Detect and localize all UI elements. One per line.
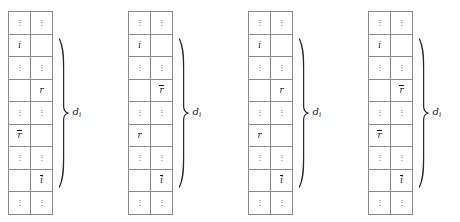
cell-right-6-vertical-dots: ⋮ (278, 154, 286, 162)
matrix-cell-right (151, 34, 173, 57)
matrix-table: ⋮⋮i⋮⋮r⋮⋮r⋮⋮i⋮⋮ (368, 11, 413, 215)
matrix-row: ⋮⋮ (249, 57, 293, 80)
right-brace-icon (417, 38, 430, 188)
matrix-cell-right (271, 124, 293, 147)
matrix-row: ⋮⋮ (129, 102, 173, 125)
matrix-cell-left: r (369, 124, 391, 147)
matrix-cell-left: ⋮ (9, 147, 31, 170)
matrix-cell-left: ⋮ (369, 12, 391, 35)
matrix-row: r (249, 79, 293, 102)
matrix-cell-right: ⋮ (151, 57, 173, 80)
cell-left-6-vertical-dots: ⋮ (376, 154, 384, 162)
cell-left-6-vertical-dots: ⋮ (16, 154, 24, 162)
matrix-cell-left: ⋮ (249, 57, 271, 80)
matrix-row: ⋮⋮ (369, 147, 413, 170)
cell-right-8-vertical-dots: ⋮ (278, 199, 286, 207)
matrix-cell-left (369, 79, 391, 102)
matrix-cell-left (249, 79, 271, 102)
matrix-cell-right: ⋮ (271, 147, 293, 170)
matrix-cell-right: ⋮ (271, 192, 293, 215)
matrix-cell-right (31, 124, 53, 147)
matrix-cell-right: ⋮ (271, 12, 293, 35)
cell-left-2-vertical-dots: ⋮ (16, 64, 24, 72)
cell-left-2-vertical-dots: ⋮ (376, 64, 384, 72)
matrix-cell-right: i (391, 169, 413, 192)
cell-left-5-symbol: r (377, 131, 381, 140)
matrix-cell-right (151, 124, 173, 147)
matrix-row: ⋮⋮ (249, 12, 293, 35)
matrix-cell-left: ⋮ (9, 102, 31, 125)
matrix-cell-left: ⋮ (9, 12, 31, 35)
cell-right-3-symbol: r (159, 86, 163, 95)
matrix-cell-right: i (31, 169, 53, 192)
matrix-cell-left: r (249, 124, 271, 147)
matrix-row: i (129, 34, 173, 57)
matrix-cell-right: ⋮ (391, 147, 413, 170)
matrix-cell-left: r (129, 124, 151, 147)
matrix-cell-right: ⋮ (391, 57, 413, 80)
cell-left-0-vertical-dots: ⋮ (256, 19, 264, 27)
matrix-row: ⋮⋮ (9, 147, 53, 170)
cell-right-3-symbol: r (39, 86, 43, 95)
matrix-cell-right (271, 34, 293, 57)
matrix-row: ⋮⋮ (9, 57, 53, 80)
matrix-figure: ⋮⋮i⋮⋮r⋮⋮r⋮⋮i⋮⋮di⋮⋮i⋮⋮r⋮⋮r⋮⋮i⋮⋮di⋮⋮i⋮⋮r⋮⋮… (0, 0, 460, 222)
matrix-cell-left: ⋮ (369, 147, 391, 170)
matrix-cell-right: ⋮ (31, 102, 53, 125)
matrix-cell-right: r (271, 79, 293, 102)
matrix-cell-right: ⋮ (31, 192, 53, 215)
matrix-cell-left: ⋮ (249, 192, 271, 215)
cell-right-0-vertical-dots: ⋮ (278, 19, 286, 27)
matrix-row: i (369, 169, 413, 192)
cell-left-1-symbol: i (258, 41, 261, 50)
brace-group: di (417, 38, 441, 188)
cell-left-1-symbol: i (138, 41, 141, 50)
brace-label: di (73, 107, 82, 119)
matrix-cell-left: ⋮ (129, 57, 151, 80)
matrix-cell-right: i (151, 169, 173, 192)
matrix-row: ⋮⋮ (129, 147, 173, 170)
matrix-cell-right: i (271, 169, 293, 192)
cell-right-0-vertical-dots: ⋮ (158, 19, 166, 27)
matrix-row: ⋮⋮ (129, 12, 173, 35)
cell-left-1-symbol: i (378, 41, 381, 50)
cell-right-6-vertical-dots: ⋮ (158, 154, 166, 162)
matrix-cell-right (391, 34, 413, 57)
cell-left-8-vertical-dots: ⋮ (256, 199, 264, 207)
cell-left-8-vertical-dots: ⋮ (376, 199, 384, 207)
brace-group: di (177, 38, 201, 188)
right-brace-icon (177, 38, 190, 188)
cell-right-2-vertical-dots: ⋮ (398, 64, 406, 72)
matrix-block: ⋮⋮i⋮⋮r⋮⋮r⋮⋮i⋮⋮di (368, 11, 441, 215)
matrix-cell-left: ⋮ (249, 102, 271, 125)
cell-right-8-vertical-dots: ⋮ (38, 199, 46, 207)
matrix-cell-right: r (31, 79, 53, 102)
matrix-table: ⋮⋮i⋮⋮r⋮⋮r⋮⋮i⋮⋮ (128, 11, 173, 215)
cell-left-2-vertical-dots: ⋮ (256, 64, 264, 72)
brace-group: di (57, 38, 81, 188)
matrix-row: ⋮⋮ (369, 192, 413, 215)
cell-left-1-symbol: i (18, 41, 21, 50)
matrix-table: ⋮⋮i⋮⋮r⋮⋮r⋮⋮i⋮⋮ (8, 11, 53, 215)
matrix-row: r (129, 79, 173, 102)
matrix-cell-left (9, 169, 31, 192)
matrix-cell-right: ⋮ (31, 147, 53, 170)
matrix-cell-left: ⋮ (9, 57, 31, 80)
cell-right-6-vertical-dots: ⋮ (38, 154, 46, 162)
matrix-block: ⋮⋮i⋮⋮r⋮⋮r⋮⋮i⋮⋮di (128, 11, 201, 215)
cell-left-8-vertical-dots: ⋮ (136, 199, 144, 207)
cell-right-3-symbol: r (279, 86, 283, 95)
brace-label: di (433, 107, 442, 119)
cell-right-4-vertical-dots: ⋮ (398, 109, 406, 117)
matrix-cell-left: ⋮ (129, 102, 151, 125)
matrix-row: i (369, 34, 413, 57)
matrix-cell-left (369, 169, 391, 192)
cell-left-5-symbol: r (137, 131, 141, 140)
matrix-cell-right: ⋮ (271, 102, 293, 125)
cell-right-7-symbol: i (40, 176, 43, 185)
matrix-row: ⋮⋮ (9, 12, 53, 35)
matrix-row: r (369, 79, 413, 102)
cell-left-4-vertical-dots: ⋮ (256, 109, 264, 117)
matrix-cell-right: r (391, 79, 413, 102)
matrix-row: ⋮⋮ (129, 57, 173, 80)
